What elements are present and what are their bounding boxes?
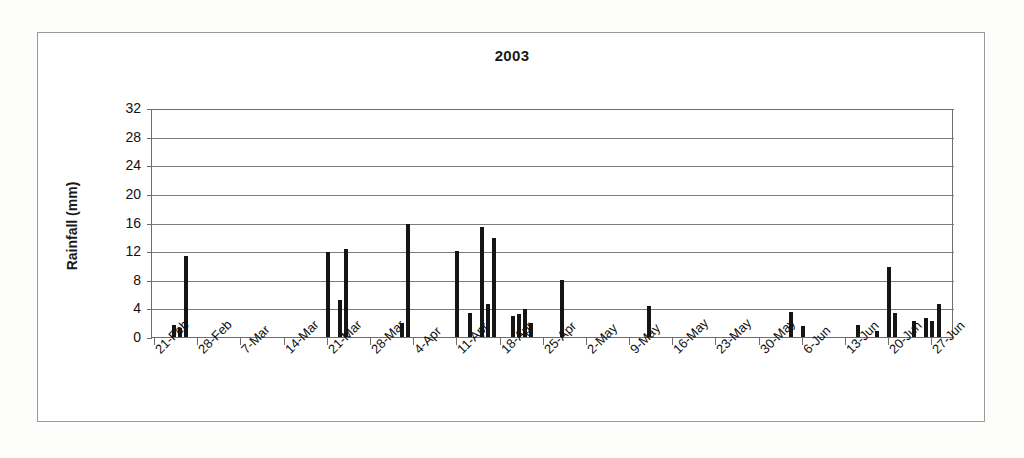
bar-series — [152, 108, 954, 337]
y-tick-label: 28 — [107, 129, 141, 145]
x-axis-labels: 21-Feb28-Feb7-Mar14-Mar21-Mar28-Mar4-Apr… — [151, 346, 953, 421]
bar — [887, 267, 891, 337]
y-tick-label: 16 — [107, 215, 141, 231]
y-tick-label: 0 — [107, 329, 141, 345]
y-tick-label: 20 — [107, 186, 141, 202]
bar — [801, 326, 805, 337]
bar — [326, 252, 330, 337]
bar — [455, 251, 459, 337]
bar — [406, 224, 410, 337]
bar — [930, 321, 934, 337]
chart-frame: 2003 Rainfall (mm) 048121620242832 21-Fe… — [37, 32, 985, 422]
y-tick-label: 12 — [107, 243, 141, 259]
plot-area: 048121620242832 — [151, 109, 953, 338]
y-tick-label: 32 — [107, 100, 141, 116]
y-tick-label: 4 — [107, 300, 141, 316]
bar — [492, 238, 496, 337]
y-tick-label: 24 — [107, 157, 141, 173]
y-axis-title: Rainfall (mm) — [64, 141, 80, 311]
y-tick-label: 8 — [107, 272, 141, 288]
screenshot-page: 2003 Rainfall (mm) 048121620242832 21-Fe… — [0, 0, 1024, 458]
bar — [937, 304, 941, 337]
chart-title: 2003 — [38, 47, 986, 64]
